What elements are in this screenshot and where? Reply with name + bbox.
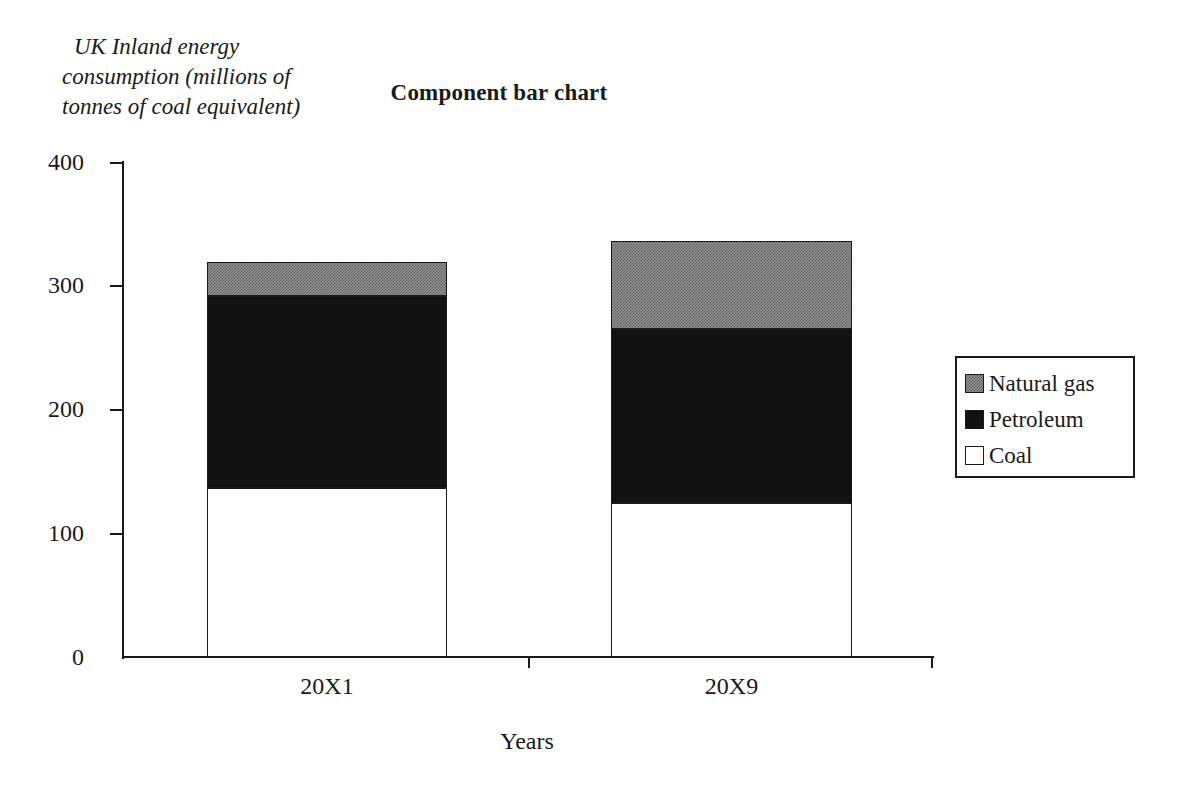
bar-segment-coal-20X1[interactable] xyxy=(207,488,447,657)
chart-legend: Natural gas Petroleum Coal xyxy=(955,356,1135,478)
legend-item-natural-gas[interactable]: Natural gas xyxy=(965,365,1133,401)
bar-segment-gas-20X9[interactable] xyxy=(611,241,852,329)
legend-item-petroleum[interactable]: Petroleum xyxy=(965,401,1133,437)
legend-swatch-gas-icon xyxy=(965,374,984,393)
y-tick-label-0: 0 xyxy=(14,645,84,669)
legend-swatch-coal-icon xyxy=(965,446,984,465)
y-tick-100 xyxy=(110,533,122,535)
y-tick-label-200: 200 xyxy=(14,397,84,421)
bar-segment-gas-20X1[interactable] xyxy=(207,262,447,297)
bar-group-20X1[interactable] xyxy=(207,163,447,657)
y-axis-line xyxy=(122,161,124,659)
x-tick-mid xyxy=(528,657,530,668)
bar-segment-petroleum-20X1[interactable] xyxy=(207,296,447,487)
x-category-label-20X9: 20X9 xyxy=(611,672,852,700)
y-tick-label-300: 300 xyxy=(14,273,84,297)
y-axis-title: UK Inland energy consumption (millions o… xyxy=(62,32,332,122)
y-tick-400 xyxy=(110,162,122,164)
legend-label-petroleum: Petroleum xyxy=(989,408,1084,431)
x-axis-title: Years xyxy=(122,728,932,755)
component-bar-chart: UK Inland energy consumption (millions o… xyxy=(0,0,1180,791)
legend-swatch-petroleum-icon xyxy=(965,410,984,429)
y-tick-300 xyxy=(110,285,122,287)
bar-group-20X9[interactable] xyxy=(611,163,852,657)
y-tick-200 xyxy=(110,409,122,411)
y-axis-title-line-1: UK Inland energy xyxy=(62,32,332,62)
y-tick-label-100: 100 xyxy=(14,521,84,545)
legend-item-coal[interactable]: Coal xyxy=(965,437,1133,473)
x-category-label-20X1: 20X1 xyxy=(207,672,447,700)
x-tick-end xyxy=(931,657,933,668)
legend-label-coal: Coal xyxy=(989,444,1032,467)
legend-label-natural-gas: Natural gas xyxy=(989,372,1094,395)
bar-segment-petroleum-20X9[interactable] xyxy=(611,329,852,503)
bar-segment-coal-20X9[interactable] xyxy=(611,503,852,657)
chart-title: Component bar chart xyxy=(0,80,1089,106)
y-tick-label-400: 400 xyxy=(14,150,84,174)
